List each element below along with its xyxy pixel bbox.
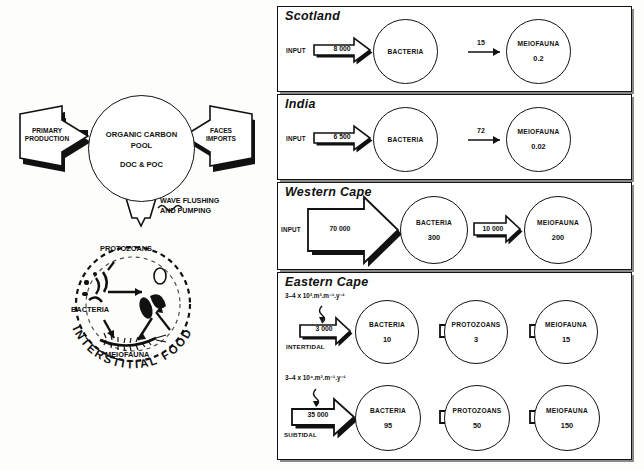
scotland-input-label: INPUT bbox=[286, 47, 306, 54]
western-cape-input-value: 70 000 bbox=[316, 225, 364, 232]
panel-western-cape: Western Cape INPUT 70 000 BACTERIA 300 1… bbox=[277, 182, 632, 270]
figure-canvas: ORGANIC CARBON POOL DOC & POC PRIMARY PR… bbox=[0, 0, 644, 470]
eastern-cape-intertidal-value: 3 000 bbox=[304, 325, 344, 332]
case-study-panels: Scotland INPUT 8 000 BACTERIA 15 MEIOFAU… bbox=[277, 6, 637, 464]
eastern-cape-subtidal-node-bacteria: BACTERIA 95 bbox=[355, 385, 421, 451]
eastern-cape-subtidal-node-protozoans: PROTOZOANS 50 bbox=[444, 385, 510, 451]
india-node-meiofauna: MEIOFAUNA 0.02 bbox=[506, 107, 571, 172]
eastern-cape-intertidal-node-protozoans: PROTOZOANS 3 bbox=[444, 300, 508, 364]
eastern-cape-intertidal-label: INTERTIDAL bbox=[286, 343, 325, 350]
india-link-value: 72 bbox=[477, 127, 485, 134]
eastern-cape-intertidal-node-meiofauna: MEIOFAUNA 15 bbox=[534, 300, 598, 364]
scotland-node-bacteria: BACTERIA bbox=[373, 19, 438, 84]
india-link-arrowhead bbox=[493, 136, 500, 144]
eastern-cape-subtidal-value: 35 000 bbox=[296, 411, 340, 418]
eastern-cape-subtidal-annotation: 3–4 x 10⁴.m³.m⁻¹.y⁻¹ bbox=[285, 374, 346, 382]
western-cape-node-meiofauna: MEIOFAUNA 200 bbox=[524, 196, 592, 264]
food-chain-ring-caption: INTERSTITIAL FOOD CHAIN bbox=[0, 0, 272, 470]
panel-eastern-cape: Eastern Cape 3–4 x 10³.m bbox=[277, 272, 632, 460]
eastern-cape-subtidal-label: SUBTIDAL bbox=[284, 431, 317, 438]
western-cape-input-label: INPUT bbox=[281, 226, 301, 233]
western-cape-node-bacteria: BACTERIA 300 bbox=[400, 196, 468, 264]
panel-scotland: Scotland INPUT 8 000 BACTERIA 15 MEIOFAU… bbox=[277, 6, 632, 92]
scotland-node-meiofauna: MEIOFAUNA 0.2 bbox=[506, 19, 571, 84]
conceptual-diagram: ORGANIC CARBON POOL DOC & POC PRIMARY PR… bbox=[0, 0, 272, 470]
scotland-link-arrowhead bbox=[493, 48, 500, 56]
svg-text:INTERSTITIAL FOOD CHAIN: INTERSTITIAL FOOD CHAIN bbox=[0, 0, 197, 370]
panel-india: India INPUT 6 500 BACTERIA 72 MEIOFAUNA … bbox=[277, 94, 632, 180]
eastern-cape-subtidal-node-meiofauna: MEIOFAUNA 150 bbox=[534, 385, 600, 451]
scotland-link-value: 15 bbox=[477, 39, 485, 46]
eastern-cape-intertidal-annotation: 3–4 x 10³.m³.m⁻¹.y⁻¹ bbox=[285, 292, 345, 300]
india-input-label: INPUT bbox=[286, 135, 306, 142]
scotland-input-value: 8 000 bbox=[322, 45, 362, 52]
india-node-bacteria: BACTERIA bbox=[373, 107, 438, 172]
india-input-value: 6 500 bbox=[322, 133, 362, 140]
western-cape-link-value: 10 000 bbox=[475, 225, 511, 232]
eastern-cape-intertidal-node-bacteria: BACTERIA 10 bbox=[355, 300, 419, 364]
